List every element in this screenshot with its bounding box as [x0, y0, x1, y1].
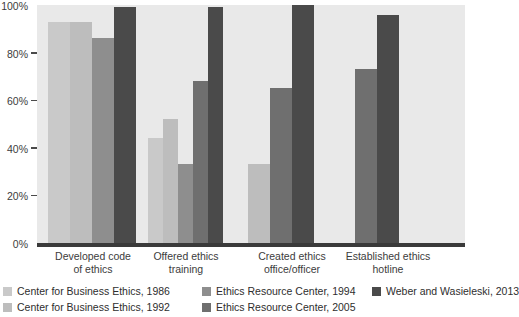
- bar: [92, 38, 114, 243]
- y-axis-tick-label: 20%: [7, 190, 28, 202]
- y-axis-tick-mark: [31, 147, 37, 149]
- y-axis-tick-label: 100%: [1, 0, 28, 12]
- bar: [355, 69, 377, 243]
- bar: [248, 164, 270, 243]
- legend-label: Ethics Resource Center, 2005: [216, 302, 356, 313]
- bar: [48, 22, 70, 243]
- bar: [270, 88, 292, 243]
- bar: [148, 138, 163, 243]
- y-axis-tick-label: 0%: [13, 238, 28, 250]
- legend-item[interactable]: Center for Business Ethics, 1986: [3, 286, 170, 297]
- bar: [292, 5, 314, 243]
- bar: [178, 164, 193, 243]
- legend-label: Center for Business Ethics, 1992: [17, 302, 170, 313]
- bar: [114, 7, 136, 243]
- y-axis-tick-mark: [31, 195, 37, 197]
- y-axis-tick-label: 80%: [7, 48, 28, 60]
- bar: [377, 15, 399, 243]
- y-axis-tick-mark: [31, 52, 37, 54]
- bar-group-3: [355, 5, 399, 243]
- bar-group-2: [248, 5, 314, 243]
- bar: [163, 119, 178, 243]
- legend-item[interactable]: Center for Business Ethics, 1992: [3, 302, 170, 313]
- legend-label: Weber and Wasieleski, 2013: [386, 286, 519, 297]
- legend-swatch-icon: [3, 303, 12, 312]
- bar-group-1: [148, 5, 223, 243]
- category-label-1: Offered ethics training: [131, 250, 241, 276]
- chart-legend: Center for Business Ethics, 1986Ethics R…: [0, 286, 475, 317]
- legend-row-1: Center for Business Ethics, 1986Ethics R…: [0, 286, 475, 299]
- category-label-3: Established ethics hotline: [333, 250, 443, 276]
- legend-label: Ethics Resource Center, 1994: [216, 286, 356, 297]
- legend-swatch-icon: [202, 287, 211, 296]
- legend-item[interactable]: Ethics Resource Center, 1994: [202, 286, 356, 297]
- y-axis-tick-label: 40%: [7, 143, 28, 155]
- category-label-2: Created ethics office/officer: [237, 250, 347, 276]
- legend-swatch-icon: [3, 287, 12, 296]
- y-axis-tick-mark: [31, 100, 37, 102]
- legend-swatch-icon: [372, 287, 381, 296]
- legend-item[interactable]: Ethics Resource Center, 2005: [202, 302, 356, 313]
- y-axis-tick-label: 60%: [7, 95, 28, 107]
- legend-row-2: Center for Business Ethics, 1992Ethics R…: [0, 302, 475, 315]
- legend-label: Center for Business Ethics, 1986: [17, 286, 170, 297]
- bar-group-0: [48, 5, 136, 243]
- legend-swatch-icon: [202, 303, 211, 312]
- bar: [70, 22, 92, 243]
- bar: [193, 81, 208, 243]
- bar: [208, 7, 223, 243]
- x-axis-baseline: [37, 243, 465, 247]
- legend-item[interactable]: Weber and Wasieleski, 2013: [372, 286, 519, 297]
